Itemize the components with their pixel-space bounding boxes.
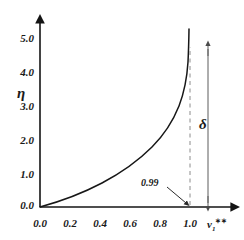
- y-tick-2: 2.0: [8, 135, 34, 146]
- y-axis-label: η: [17, 86, 25, 101]
- x-axis-label: v1∗∗: [207, 218, 227, 233]
- y-tick-0: 0.0: [8, 200, 34, 211]
- chart-canvas: [0, 0, 244, 240]
- data-curve: [40, 29, 189, 207]
- x-tick-4: 0.8: [148, 218, 172, 229]
- x-tick-2: 0.4: [88, 218, 112, 229]
- x-tick-1: 0.2: [58, 218, 82, 229]
- point-annotation-label: 0.99: [141, 178, 159, 188]
- figure-container: 5.0 4.0 3.0 2.0 1.0 0.0 η 0.0 0.2 0.4 0.…: [0, 0, 244, 240]
- annotation-arrow: [167, 187, 186, 203]
- x-tick-5: 1.0: [178, 218, 202, 229]
- x-axis-label-subscript: 1: [212, 225, 216, 233]
- x-tick-3: 0.6: [118, 218, 142, 229]
- x-tick-0: 0.0: [28, 218, 52, 229]
- y-tick-3: 3.0: [8, 101, 34, 112]
- y-tick-1: 1.0: [8, 169, 34, 180]
- delta-label: δ: [199, 117, 207, 132]
- y-tick-5: 5.0: [8, 33, 34, 44]
- x-axis-label-superscript: ∗∗: [215, 217, 227, 225]
- y-tick-4: 4.0: [8, 67, 34, 78]
